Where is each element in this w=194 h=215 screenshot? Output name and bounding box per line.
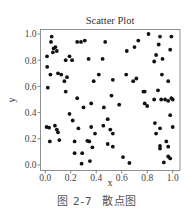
data-point: [153, 121, 157, 125]
data-point: [101, 57, 105, 61]
data-point: [64, 58, 68, 62]
data-point: [68, 112, 72, 116]
data-point: [124, 73, 128, 77]
data-point: [111, 132, 115, 136]
data-point: [125, 49, 129, 53]
data-point: [47, 126, 51, 130]
y-axis-label: y: [6, 98, 17, 103]
x-tick-label: 0.4: [90, 173, 102, 183]
data-point: [106, 142, 110, 146]
data-point: [92, 79, 96, 83]
data-point: [91, 145, 95, 149]
data-point: [52, 47, 56, 51]
data-point: [168, 48, 172, 52]
y-tick-label: 0.6: [25, 82, 37, 92]
data-point: [68, 54, 72, 58]
data-point: [162, 161, 166, 165]
data-point: [154, 132, 158, 136]
data-point: [152, 60, 156, 64]
data-point: [135, 77, 139, 81]
data-point: [73, 140, 77, 144]
data-point: [50, 35, 54, 39]
data-point: [83, 39, 87, 43]
data-point: [158, 147, 162, 151]
data-point: [70, 58, 74, 62]
data-point: [63, 79, 67, 83]
data-point: [89, 125, 93, 129]
data-point: [89, 102, 93, 106]
data-point: [131, 79, 135, 83]
data-point: [121, 155, 125, 159]
figure-caption: 图 2-7散点图: [0, 192, 194, 208]
x-tick-label: 0.0: [39, 173, 51, 183]
data-point: [87, 140, 91, 144]
data-point: [88, 159, 92, 163]
caption-number: 图 2-7: [57, 195, 92, 208]
data-point: [45, 65, 49, 69]
data-point: [111, 145, 115, 149]
x-tick-label: 1.0: [167, 173, 179, 183]
data-point: [136, 39, 140, 43]
data-point: [154, 53, 158, 57]
data-point: [156, 88, 160, 92]
data-point: [57, 138, 61, 142]
y-tick-label: 0.0: [25, 160, 37, 170]
data-point: [103, 40, 107, 44]
data-point: [171, 125, 175, 129]
data-point: [64, 90, 68, 94]
data-point: [93, 132, 97, 136]
data-point: [106, 117, 110, 121]
data-point: [56, 130, 60, 134]
data-point: [75, 40, 79, 44]
data-point: [166, 99, 170, 103]
data-point: [117, 103, 121, 107]
data-point: [80, 151, 84, 155]
data-point: [127, 161, 131, 165]
data-point: [166, 145, 170, 149]
data-point: [65, 75, 69, 79]
x-tick-label: 0.6: [116, 173, 128, 183]
data-point: [48, 140, 52, 144]
data-point: [59, 73, 63, 77]
y-tick-label: 0.2: [25, 134, 37, 144]
y-tick-label: 0.8: [25, 56, 37, 66]
scatter-chart: Scatter Plot 0.00.20.40.60.81.0 0.00.20.…: [0, 0, 194, 190]
data-point: [97, 73, 101, 77]
data-point: [111, 78, 115, 82]
data-point: [152, 98, 156, 102]
data-point: [158, 126, 162, 130]
data-point: [158, 35, 162, 39]
data-point: [51, 50, 55, 54]
data-point: [168, 157, 172, 161]
data-point: [80, 162, 84, 166]
x-tick-label: 0.2: [65, 173, 77, 183]
data-point: [170, 35, 174, 39]
data-point: [168, 113, 172, 117]
data-point: [133, 45, 137, 49]
data-point: [49, 40, 53, 44]
x-tick-label: 0.8: [141, 173, 153, 183]
data-point: [164, 140, 168, 144]
data-point: [159, 98, 163, 102]
data-point: [161, 57, 165, 61]
data-point: [101, 124, 105, 128]
data-point: [55, 49, 59, 53]
data-point: [75, 96, 79, 100]
data-point: [53, 124, 57, 128]
x-axis-label: x: [108, 177, 113, 188]
data-point: [46, 86, 50, 90]
data-point: [45, 54, 49, 58]
data-point: [110, 94, 114, 98]
data-point: [147, 32, 151, 36]
data-point: [71, 119, 75, 123]
data-point: [108, 128, 112, 132]
y-tick-label: 1.0: [25, 29, 37, 39]
data-point: [102, 106, 106, 110]
data-points: [45, 32, 175, 166]
data-point: [87, 57, 91, 61]
data-point: [73, 151, 77, 155]
data-point: [77, 126, 81, 130]
data-point: [82, 106, 86, 110]
data-point: [79, 40, 83, 44]
data-point: [166, 79, 170, 83]
